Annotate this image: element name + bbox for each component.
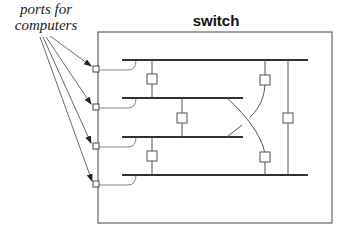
bridge-box-3-4 (147, 151, 157, 161)
port-4 (93, 181, 99, 187)
arrow-to-port-1 (50, 36, 91, 66)
bridge-box-1-3-cross (260, 75, 270, 85)
bridge-box-1-2 (147, 74, 157, 84)
arrow-to-port-3 (43, 37, 91, 143)
port-arrows (40, 36, 92, 181)
bridge-box-1-4 (283, 113, 293, 123)
bridge-box-2-4-cross (260, 152, 270, 162)
port-1-connector (99, 60, 136, 70)
port-2 (93, 104, 99, 110)
bridge-boxes (147, 74, 293, 162)
port-connectors (99, 60, 136, 185)
arrow-to-port-4 (40, 37, 92, 181)
port-1 (93, 66, 99, 72)
port-4-connector (99, 175, 136, 185)
switch-diagram (0, 0, 349, 238)
port-2-connector (99, 98, 136, 108)
bridge-box-2-3 (177, 113, 187, 123)
port-3-connector (99, 137, 136, 147)
port-3 (93, 143, 99, 149)
